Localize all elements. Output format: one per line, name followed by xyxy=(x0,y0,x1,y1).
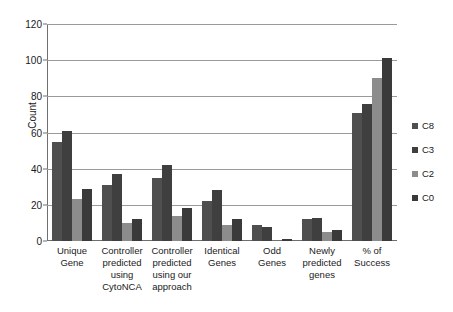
bar[interactable] xyxy=(262,227,272,241)
bar[interactable] xyxy=(372,78,382,241)
bar-groups xyxy=(47,24,397,241)
y-tick-label: 80 xyxy=(31,91,42,102)
x-axis-label: Newlypredictedgenes xyxy=(297,245,347,293)
bar-group xyxy=(247,24,297,241)
legend-swatch-icon xyxy=(412,195,418,201)
legend-item[interactable]: C3 xyxy=(412,144,434,155)
bar[interactable] xyxy=(52,142,62,241)
bar[interactable] xyxy=(202,201,212,241)
bar[interactable] xyxy=(232,219,242,241)
bar[interactable] xyxy=(322,232,332,241)
x-axis-labels: UniqueGeneControllerpredictedusingCytoNC… xyxy=(47,245,397,293)
bar[interactable] xyxy=(112,174,122,241)
legend-swatch-icon xyxy=(412,123,418,129)
y-tick-label: 40 xyxy=(31,163,42,174)
y-tick-label: 120 xyxy=(25,19,42,30)
x-axis-label: Controllerpredictedusing ourapproach xyxy=(147,245,197,293)
bar[interactable] xyxy=(162,165,172,241)
y-tick-label: 100 xyxy=(25,55,42,66)
bar[interactable] xyxy=(222,225,232,241)
bar[interactable] xyxy=(352,113,362,241)
bar-group xyxy=(347,24,397,241)
legend-label: C8 xyxy=(422,120,434,131)
bar[interactable] xyxy=(122,223,132,241)
bar[interactable] xyxy=(312,218,322,242)
bar[interactable] xyxy=(172,216,182,241)
y-tick-label: 20 xyxy=(31,199,42,210)
bar-group xyxy=(47,24,97,241)
legend-label: C0 xyxy=(422,192,434,203)
bar[interactable] xyxy=(82,189,92,241)
bar[interactable] xyxy=(132,219,142,241)
plot-area: 120100806040200 xyxy=(47,24,397,241)
legend-item[interactable]: C2 xyxy=(412,168,434,179)
bar[interactable] xyxy=(362,104,372,241)
bar-group xyxy=(297,24,347,241)
x-axis-label: UniqueGene xyxy=(47,245,97,293)
legend: C8C3C2C0 xyxy=(412,120,434,203)
bar[interactable] xyxy=(302,219,312,241)
bar[interactable] xyxy=(152,178,162,241)
x-axis-label: IdenticalGenes xyxy=(197,245,247,293)
bar[interactable] xyxy=(332,230,342,241)
x-axis-label: % ofSuccess xyxy=(347,245,397,293)
bar-group xyxy=(197,24,247,241)
legend-label: C2 xyxy=(422,168,434,179)
x-axis-label: Odd Genes xyxy=(247,245,297,293)
bar[interactable] xyxy=(252,225,262,241)
bar[interactable] xyxy=(72,199,82,241)
bar-chart-figure: Count 120100806040200 UniqueGeneControll… xyxy=(0,0,453,312)
bar[interactable] xyxy=(62,131,72,241)
bar-group xyxy=(97,24,147,241)
legend-label: C3 xyxy=(422,144,434,155)
bar[interactable] xyxy=(282,239,292,241)
legend-item[interactable]: C8 xyxy=(412,120,434,131)
bar[interactable] xyxy=(182,208,192,241)
legend-item[interactable]: C0 xyxy=(412,192,434,203)
bar-group xyxy=(147,24,197,241)
y-tick-label: 0 xyxy=(36,236,42,247)
legend-swatch-icon xyxy=(412,171,418,177)
y-tick-label: 60 xyxy=(31,127,42,138)
bar[interactable] xyxy=(102,185,112,241)
bar[interactable] xyxy=(382,58,392,241)
legend-swatch-icon xyxy=(412,147,418,153)
x-axis-label: ControllerpredictedusingCytoNCA xyxy=(97,245,147,293)
bar[interactable] xyxy=(212,190,222,241)
